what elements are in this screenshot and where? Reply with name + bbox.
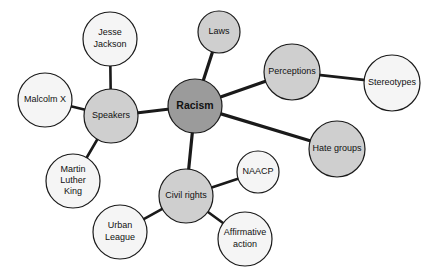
node-martin-luther-king[interactable]: MartinLutherKing [46,154,100,208]
node-label-stereotypes: Stereotypes [368,77,417,87]
node-stereotypes[interactable]: Stereotypes [364,55,420,111]
node-label-line: NAACP [242,166,273,176]
node-label-line: Hate groups [312,143,362,153]
node-label-line: Laws [208,26,230,36]
node-civil-rights[interactable]: Civil rights [159,169,213,223]
node-label-naacp: NAACP [242,166,273,176]
node-label-laws: Laws [208,26,230,36]
edge-racism-hate-groups [219,113,311,141]
node-label-line: League [105,232,135,242]
concept-map-graph: RacismSpeakersLawsPerceptionsHate groups… [0,0,434,280]
node-label-line: Speakers [92,110,131,120]
node-label-malcolm-x: Malcolm X [24,94,66,104]
node-label-line: Urban [108,221,133,231]
node-layer: RacismSpeakersLawsPerceptionsHate groups… [18,11,420,266]
edge-racism-civil-rights [189,131,193,170]
node-label-line: action [233,239,257,249]
node-label-urban-league: UrbanLeague [105,221,135,242]
edge-racism-perceptions [219,81,267,98]
node-label-line: Jesse [98,28,122,38]
node-label-line: Racism [176,99,213,111]
node-urban-league[interactable]: UrbanLeague [93,205,147,259]
edge-racism-speakers [136,109,169,113]
node-label-martin-luther-king: MartinLutherKing [60,164,86,197]
edge-civil-rights-urban-league [142,208,163,220]
node-label-jesse-jackson: JesseJackson [93,28,126,49]
node-label-line: Malcolm X [24,94,66,104]
edge-speakers-malcolm-x [70,106,86,110]
node-label-line: Martin [60,164,85,174]
edge-civil-rights-naacp [210,178,239,188]
node-label-line: Perceptions [268,66,316,76]
node-speakers[interactable]: Speakers [84,89,138,143]
node-racism[interactable]: Racism [168,79,222,133]
node-label-line: Civil rights [165,190,207,200]
node-jesse-jackson[interactable]: JesseJackson [83,12,137,66]
edge-racism-laws [203,51,213,82]
node-label-line: Affirmative [224,228,266,238]
node-hate-groups[interactable]: Hate groups [309,121,365,177]
node-label-line: Stereotypes [368,77,417,87]
node-label-line: King [64,187,82,197]
node-perceptions[interactable]: Perceptions [264,44,320,100]
edge-civil-rights-affirmative-action [207,211,225,224]
node-label-racism: Racism [176,99,213,111]
node-laws[interactable]: Laws [198,11,240,53]
node-label-speakers: Speakers [92,110,131,120]
node-affirmative-action[interactable]: Affirmativeaction [218,212,272,266]
node-label-line: Luther [60,175,86,185]
node-naacp[interactable]: NAACP [237,151,279,193]
node-label-hate-groups: Hate groups [312,143,362,153]
node-label-civil-rights: Civil rights [165,190,207,200]
node-malcolm-x[interactable]: Malcolm X [18,73,72,127]
concept-map-canvas: RacismSpeakersLawsPerceptionsHate groups… [0,0,434,280]
node-label-line: Jackson [93,39,126,49]
edge-speakers-martin-luther-king [86,138,98,159]
edge-perceptions-stereotypes [318,75,365,80]
node-label-perceptions: Perceptions [268,66,316,76]
